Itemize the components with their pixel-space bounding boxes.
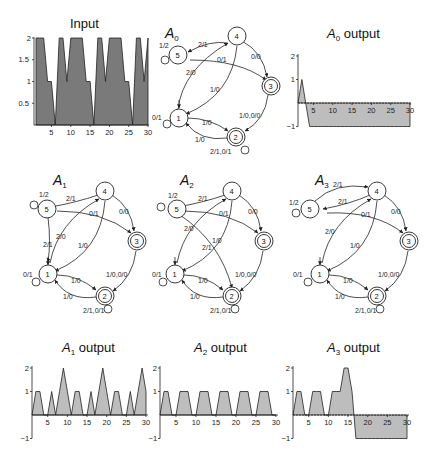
automaton-a3: A3 2/1 2/1 0/1 0/0 2/0 1/0 1/0 1/0 1/0,0…	[289, 172, 418, 314]
node-label-4: 4	[103, 187, 107, 196]
edge-label-4-3: 0/0	[251, 53, 261, 60]
edge-5-1	[48, 217, 50, 262]
edge-label-5-self: 1/2	[289, 199, 299, 206]
svg-text:15: 15	[212, 418, 220, 427]
node-label-2: 2	[234, 133, 238, 142]
svg-text:20: 20	[102, 418, 110, 427]
edge-label-4-3: 0/0	[391, 208, 401, 215]
a3-output-title: A3 output	[326, 340, 380, 357]
edge-label-5-3: 0/1	[219, 210, 229, 217]
a0-title: A0	[164, 25, 179, 43]
edge-label-2-self: 2/1,0/1	[355, 307, 377, 314]
node-label-1: 1	[177, 114, 181, 123]
node-label-5: 5	[176, 51, 180, 60]
edge-label-5-self: 1/2	[39, 191, 49, 198]
svg-text:30: 30	[406, 106, 414, 115]
svg-text:−1: −1	[149, 434, 158, 443]
svg-text:−1: −1	[21, 434, 30, 443]
edge-1-4	[50, 199, 99, 263]
self-loop-1	[159, 278, 167, 286]
svg-text:20: 20	[367, 106, 375, 115]
edge-label-2-self: 2/1,0/1	[210, 148, 232, 155]
node-label-3: 3	[135, 237, 139, 246]
self-loop-2	[104, 305, 112, 313]
edge-label-5-self: 1/2	[168, 192, 178, 199]
edge-label-1-2: 1/0	[71, 277, 81, 284]
a0-output-chart: A0 output 51015202530−112	[287, 26, 415, 131]
svg-text:25: 25	[124, 128, 132, 137]
svg-text:5: 5	[311, 106, 315, 115]
svg-text:2: 2	[153, 364, 157, 373]
edge-label-4-5: 2/1	[338, 198, 348, 205]
edge-label-2-self: 2/1,0/1	[210, 307, 232, 314]
a2-output-area	[160, 392, 276, 416]
svg-text:20: 20	[105, 128, 113, 137]
a3-output-area	[293, 368, 407, 439]
node-label-2: 2	[230, 292, 234, 301]
input-chart-title: Input	[70, 16, 99, 31]
self-loop-5	[157, 203, 165, 211]
svg-text:15: 15	[344, 418, 352, 427]
node-label-5: 5	[45, 205, 49, 214]
self-loop-1	[163, 120, 171, 128]
edge-label-1-self: 0/1	[23, 271, 33, 278]
node-label-4: 4	[230, 187, 234, 196]
a1-output-title: A1 output	[61, 340, 115, 357]
edge-label-1-4: 2/0	[56, 233, 66, 240]
edge-label-1-self: 0/1	[293, 271, 303, 278]
self-loop-2	[376, 305, 384, 313]
edge-4-1	[186, 46, 237, 114]
edge-label-2-self: 2/1,0/1	[83, 307, 105, 314]
edge-label-4-1: 1/0	[350, 242, 360, 249]
a1-title: A1	[52, 172, 67, 190]
edge-label-1-4: 2/0	[184, 225, 194, 232]
a1-output-chart: A1 output 51015202530−112	[21, 340, 151, 443]
node-label-3: 3	[407, 237, 411, 246]
edge-label-4-3: 0/0	[119, 208, 129, 215]
node-label-4: 4	[235, 32, 239, 41]
edge-label-1-self: 0/1	[152, 271, 162, 278]
a2-output-title: A2 output	[193, 340, 247, 357]
svg-text:25: 25	[252, 418, 260, 427]
node-label-5: 5	[175, 205, 179, 214]
edge-label-4-5: 2/1	[198, 41, 208, 48]
svg-text:25: 25	[122, 418, 130, 427]
edge-label-3-2: 1/0,0/0	[239, 112, 261, 119]
self-loop-1	[304, 278, 312, 286]
edge-label-2-1: 1/0	[195, 136, 205, 143]
svg-text:15: 15	[83, 418, 91, 427]
edge-label-1-2: 1/0	[343, 277, 353, 284]
self-loop-2	[231, 305, 239, 313]
svg-text:2: 2	[286, 364, 290, 373]
self-loop-5	[161, 56, 169, 64]
edge-label-5-2: 2/1	[202, 244, 212, 251]
edge-label-3-2: 1/0,0/0	[235, 271, 257, 278]
svg-text:15: 15	[86, 128, 94, 137]
self-loop-2	[241, 146, 249, 154]
a3-output-chart: A3 output 51015202530−112	[282, 340, 412, 443]
node-label-1: 1	[46, 270, 50, 279]
input-chart: Input 510152025300.511.52	[18, 16, 152, 137]
svg-text:25: 25	[386, 106, 394, 115]
a2-title: A2	[179, 172, 194, 190]
svg-text:10: 10	[67, 128, 75, 137]
self-loop-5	[30, 201, 38, 209]
svg-text:30: 30	[403, 418, 411, 427]
automaton-a2: A2 2/1 0/1 0/0 2/0 2/1 1/0 1/0 1/0 1/0,0…	[152, 172, 273, 314]
node-label-1: 1	[173, 270, 177, 279]
svg-text:1: 1	[153, 387, 157, 396]
figure: Input 510152025300.511.52 A0 output 5101…	[0, 0, 433, 464]
edge-label-4-3: 0/0	[248, 208, 258, 215]
edge-label-1-4: 2/0	[325, 228, 335, 235]
automaton-a1: A1 2/1 0/1 0/0 2/0 2/1 1/0 1/0 1/0 1/0,0…	[23, 172, 146, 314]
node-label-2: 2	[375, 292, 379, 301]
input-area	[36, 38, 148, 125]
edge-label-5-4: 2/1	[333, 181, 343, 188]
edge-label-4-1: 1/0	[212, 237, 222, 244]
edge-label-1-4: 2/0	[186, 69, 196, 76]
edge-label-1-2: 1/0	[202, 119, 212, 126]
svg-text:10: 10	[192, 418, 200, 427]
svg-text:30: 30	[144, 128, 152, 137]
svg-text:30: 30	[272, 418, 280, 427]
edge-label-3-2: 1/0,0/0	[378, 271, 400, 278]
